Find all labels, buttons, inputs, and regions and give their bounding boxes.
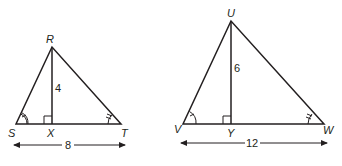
angle-arc-v <box>190 112 197 125</box>
similar-triangles-diagram: R S X T 4 8 U V Y W 6 12 <box>0 0 342 166</box>
altitude-label-4: 4 <box>55 82 61 94</box>
vertex-label-w: W <box>323 124 335 136</box>
triangle-rst: R S X T 4 8 <box>8 33 129 151</box>
angle-arc-t <box>108 115 112 124</box>
vertex-label-u: U <box>227 7 235 19</box>
triangle-uvw: U V Y W 6 12 <box>174 7 335 149</box>
vertex-label-x: X <box>46 127 55 139</box>
vertex-label-v: V <box>174 123 183 135</box>
triangle-uvw-outline <box>183 21 324 124</box>
base-label-8: 8 <box>65 139 71 151</box>
right-angle-mark-y <box>223 116 231 124</box>
altitude-label-6: 6 <box>234 62 240 74</box>
vertex-label-r: R <box>46 33 54 45</box>
vertex-label-s: S <box>8 127 16 139</box>
vertex-label-t: T <box>121 127 129 139</box>
triangle-rst-outline <box>16 47 121 124</box>
right-angle-mark-x <box>44 116 52 124</box>
base-label-12: 12 <box>246 137 258 149</box>
vertex-label-y: Y <box>227 127 235 139</box>
